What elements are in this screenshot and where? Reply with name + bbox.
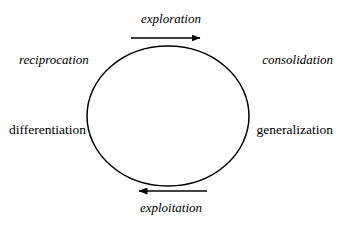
label-consolidation: consolidation [262, 53, 333, 66]
label-exploitation: exploitation [0, 201, 342, 214]
cycle-circle [87, 46, 249, 186]
label-reciprocation: reciprocation [19, 53, 89, 66]
label-exploration: exploration [0, 12, 342, 25]
label-generalization: generalization [257, 123, 333, 137]
cycle-diagram-graphic [0, 0, 342, 226]
label-differentiation: differentiation [9, 123, 86, 137]
diagram-canvas: exploration exploitation reciprocation c… [0, 0, 342, 226]
